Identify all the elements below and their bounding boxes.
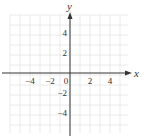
y-tick-label: 4 (63, 28, 68, 38)
grid-lines (10, 15, 128, 133)
x-tick-label: −2 (45, 76, 55, 86)
x-tick-label: −4 (25, 76, 35, 86)
y-axis-label: y (66, 0, 72, 12)
x-tick-label: 4 (108, 76, 113, 86)
x-tick-label: 0 (64, 76, 69, 86)
x-axis-label: x (133, 67, 139, 79)
axes (2, 12, 132, 136)
coordinate-plane: x y −4−2024 42−2−4 (0, 0, 144, 137)
y-tick-label: −2 (57, 88, 67, 98)
x-tick-label: 2 (88, 76, 93, 86)
y-tick-label: −4 (57, 108, 67, 118)
y-axis-arrow-icon (68, 12, 73, 19)
x-axis-arrow-icon (125, 71, 132, 76)
y-tick-label: 2 (63, 48, 68, 58)
